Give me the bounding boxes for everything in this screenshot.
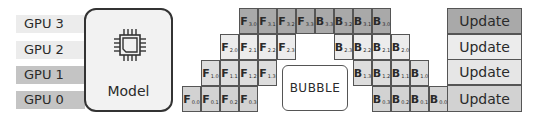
forward-cell: F2.3 bbox=[277, 34, 296, 60]
backward-cell: B0.2 bbox=[391, 86, 410, 112]
update-box: Update bbox=[447, 85, 522, 112]
update-box: Update bbox=[447, 8, 522, 34]
update-box: Update bbox=[447, 34, 522, 60]
model-label: Model bbox=[86, 83, 171, 99]
forward-cell: F3.0 bbox=[239, 8, 258, 34]
forward-cell: F1.0 bbox=[201, 60, 220, 86]
forward-cell: F3.2 bbox=[277, 8, 296, 34]
forward-cell: F3.3 bbox=[296, 8, 315, 34]
forward-cell: F1.3 bbox=[258, 60, 277, 86]
gpu-label: GPU 1 bbox=[16, 66, 85, 84]
backward-cell: B2.1 bbox=[372, 34, 391, 60]
backward-cell: B2.2 bbox=[353, 34, 372, 60]
backward-cell: B0.1 bbox=[410, 86, 429, 112]
backward-cell: B3.0 bbox=[372, 8, 391, 34]
gpu-label: GPU 3 bbox=[16, 15, 85, 33]
backward-cell: B3.2 bbox=[334, 8, 353, 34]
forward-cell: F0.1 bbox=[201, 86, 220, 112]
gpu-label: GPU 0 bbox=[16, 91, 85, 109]
forward-cell: F1.2 bbox=[239, 60, 258, 86]
forward-cell: F2.0 bbox=[220, 34, 239, 60]
chip-icon bbox=[113, 28, 147, 62]
backward-cell: B2.3 bbox=[334, 34, 353, 60]
backward-cell: B0.0 bbox=[429, 86, 448, 112]
forward-cell: F2.1 bbox=[239, 34, 258, 60]
backward-cell: B1.2 bbox=[372, 60, 391, 86]
backward-cell: B1.0 bbox=[410, 60, 429, 86]
backward-cell: B3.3 bbox=[315, 8, 334, 34]
forward-cell: F0.2 bbox=[220, 86, 239, 112]
bubble-box: BUBBLE bbox=[282, 65, 348, 111]
backward-cell: B1.3 bbox=[353, 60, 372, 86]
backward-cell: B0.3 bbox=[372, 86, 391, 112]
forward-cell: F0.3 bbox=[239, 86, 258, 112]
gpu-label: GPU 2 bbox=[16, 41, 85, 59]
update-box: Update bbox=[447, 59, 522, 85]
model-box: Model bbox=[84, 8, 173, 112]
backward-cell: B3.1 bbox=[353, 8, 372, 34]
forward-cell: F3.1 bbox=[258, 8, 277, 34]
backward-cell: B2.0 bbox=[391, 34, 410, 60]
forward-cell: F0.0 bbox=[182, 86, 201, 112]
forward-cell: F1.1 bbox=[220, 60, 239, 86]
forward-cell: F2.2 bbox=[258, 34, 277, 60]
backward-cell: B1.1 bbox=[391, 60, 410, 86]
